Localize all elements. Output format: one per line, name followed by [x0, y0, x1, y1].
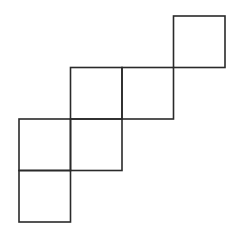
square-net-diagram [0, 0, 242, 240]
square-cell-0 [174, 16, 226, 68]
square-cell-5 [19, 171, 71, 223]
square-cell-4 [71, 119, 123, 171]
square-cell-2 [122, 68, 174, 120]
square-cells [19, 16, 225, 222]
square-cell-1 [71, 68, 123, 120]
square-cell-3 [19, 119, 71, 171]
